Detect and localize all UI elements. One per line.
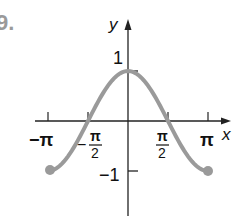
y-tick-label-neg-one: −1	[99, 165, 120, 185]
fraction-denominator: 2	[91, 145, 99, 161]
x-axis-arrow-icon	[221, 118, 231, 125]
problem-number: 9.	[0, 10, 14, 35]
x-axis	[35, 112, 231, 125]
x-tick-label-half-pi: π 2	[156, 128, 169, 161]
cosine-graph: 9. y x 1 −1 −π π − π 2 π 2	[0, 0, 245, 219]
y-axis-label: y	[108, 15, 119, 34]
fraction-numerator: π	[90, 128, 101, 144]
x-tick-label-pi: π	[200, 130, 214, 150]
fraction-denominator: 2	[158, 145, 166, 161]
x-axis-label: x	[221, 125, 231, 144]
right-endpoint-dot	[203, 166, 213, 176]
y-axis	[125, 19, 139, 216]
minus-sign: −	[77, 136, 86, 153]
left-endpoint-dot	[45, 165, 55, 175]
y-tick-label-one: 1	[113, 48, 123, 68]
x-tick-label-neg-pi: −π	[29, 130, 54, 150]
fraction-numerator: π	[157, 128, 168, 144]
y-axis-arrow-icon	[125, 19, 132, 30]
